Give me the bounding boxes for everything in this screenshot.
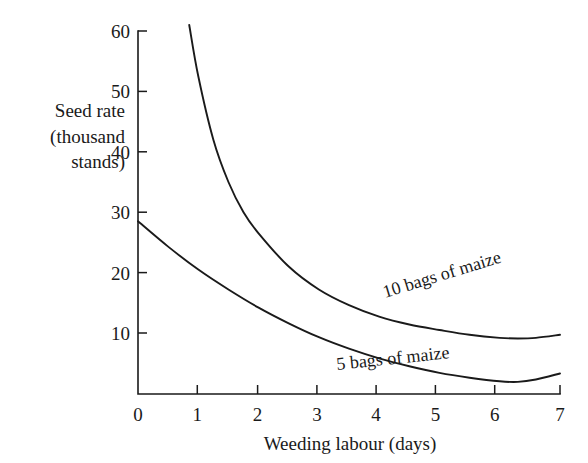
series-label-5-bags: 5 bags of maize [335,342,450,374]
y-tick-label-10: 10 [111,323,130,344]
x-axis-ticks [197,385,560,394]
y-tick-label-60: 60 [111,21,130,42]
x-tick-label-4: 4 [371,404,381,425]
y-axis-title: Seed rate (thousand stands) [50,100,125,173]
x-tick-label-1: 1 [193,404,203,425]
chart-axes [138,31,560,394]
y-tick-label-20: 20 [111,263,130,284]
x-tick-label-7: 7 [555,404,565,425]
series-label-10-bags: 10 bags of maize [380,247,503,302]
series-line-10-bags [189,25,560,338]
x-tick-label-3: 3 [312,404,322,425]
x-tick-label-5: 5 [431,404,441,425]
x-tick-label-0: 0 [133,404,143,425]
chart-figure: 60 50 40 30 20 10 0 1 2 3 4 5 6 7 Seed r… [0,0,588,463]
y-tick-label-30: 30 [111,202,130,223]
x-axis-title: Weeding labour (days) [264,433,437,455]
y-axis-ticks [138,31,147,333]
x-tick-label-6: 6 [490,404,500,425]
y-axis-title-line-2: (thousand [50,126,125,148]
chart-canvas: 60 50 40 30 20 10 0 1 2 3 4 5 6 7 Seed r… [0,0,588,463]
y-axis-title-line-1: Seed rate [55,100,125,121]
y-axis-title-line-3: stands) [71,151,125,173]
y-tick-label-50: 50 [111,81,130,102]
x-tick-label-2: 2 [253,404,263,425]
